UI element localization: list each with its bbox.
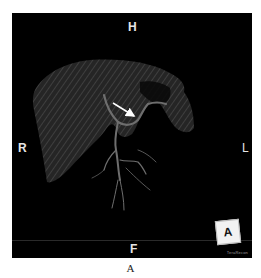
orientation-cube-label: A [223,225,233,240]
orientation-label-right: R [18,142,27,154]
orientation-label-left: L [242,142,249,154]
figure-caption: A [0,262,261,274]
liver-shape [33,60,194,183]
orientation-cube-icon: A [215,219,241,245]
orientation-label-foot: F [130,243,137,255]
vendor-watermark: TeraRecon [227,250,248,255]
image-panel: H R L F A TeraRecon [12,13,252,258]
orientation-label-head: H [128,21,137,33]
